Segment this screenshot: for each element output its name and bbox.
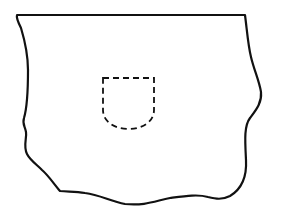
fragment-drawing: [0, 0, 292, 222]
diagram-canvas: [0, 0, 292, 222]
